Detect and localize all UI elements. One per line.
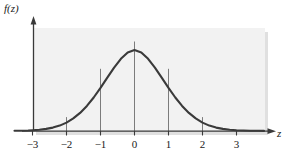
x-axis-label: z xyxy=(277,127,281,139)
x-axis-arrowhead xyxy=(268,128,277,134)
y-axis-arrowhead xyxy=(31,16,37,25)
tick-label-1: 1 xyxy=(158,138,180,150)
y-axis-label: f(z) xyxy=(4,2,19,14)
normal-distribution-figure: f(z) z −3 −2 −1 0 1 2 3 xyxy=(0,0,292,163)
tick-label-neg1: −1 xyxy=(90,138,112,150)
tick-label-neg2: −2 xyxy=(56,138,78,150)
tick-label-3: 3 xyxy=(226,138,248,150)
panel-background xyxy=(33,28,265,131)
plot-area xyxy=(0,0,292,163)
tick-label-2: 2 xyxy=(192,138,214,150)
tick-label-neg3: −3 xyxy=(22,138,44,150)
tick-label-0: 0 xyxy=(124,138,146,150)
